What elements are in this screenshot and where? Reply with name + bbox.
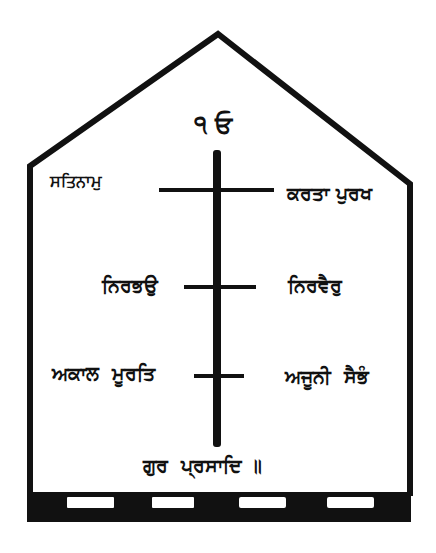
row2-right-label: ਨਿਰਵੈਰੁ — [288, 276, 342, 295]
base-slot-4 — [327, 497, 374, 508]
base-slot-3 — [239, 497, 286, 508]
crossbar-top — [159, 188, 274, 192]
ik-onkar-label: ੧ ਓ — [194, 113, 232, 137]
row2-left-label: ਨਿਰਭਉ — [102, 276, 158, 295]
row3-left-label: ਅਕਾਲ ਮੂਰਤਿ — [52, 364, 155, 383]
crossbar-middle — [184, 285, 256, 289]
base-slot-2 — [152, 497, 194, 508]
row3-right-label: ਅਜੂਨੀ ਸੈਭੰ — [285, 367, 369, 386]
row1-left-label: ਸਤਿਨਾਮੁ — [50, 174, 102, 190]
row1-right-label: ਕਰਤਾ ਪੁਰਖ — [287, 184, 372, 203]
base-slot-1 — [67, 497, 114, 508]
gur-prasad-label: ਗੁਰ ਪ੍ਰਸਾਦਿ ॥ — [143, 456, 262, 475]
crossbar-bottom — [194, 374, 244, 378]
central-pillar — [213, 150, 221, 447]
